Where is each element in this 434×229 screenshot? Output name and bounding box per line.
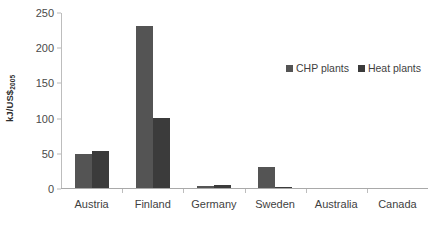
y-axis-title-main: kJ/US$	[4, 90, 15, 122]
y-tick-mark	[57, 153, 61, 154]
bar	[275, 187, 292, 188]
bar-chart: kJ/US$2005 050100150200250 AustriaFinlan…	[0, 0, 434, 229]
y-axis-line	[61, 13, 62, 189]
bar-group	[255, 167, 295, 188]
bar	[92, 151, 109, 188]
legend-label: CHP plants	[296, 62, 349, 74]
legend-swatch-icon	[286, 65, 293, 72]
x-axis-tick	[122, 189, 123, 193]
y-tick-label: 50	[42, 148, 54, 160]
category-label: Austria	[74, 198, 108, 210]
y-tick-label: 100	[36, 113, 54, 125]
y-tick-label: 200	[36, 42, 54, 54]
legend-item[interactable]: CHP plants	[286, 62, 349, 74]
category-label: Finland	[135, 198, 171, 210]
plot-area: 050100150200250 AustriaFinlandGermanySwe…	[61, 13, 428, 189]
x-axis-tick	[367, 189, 368, 193]
bar	[214, 185, 231, 188]
y-tick-mark	[57, 13, 61, 14]
legend-label: Heat plants	[368, 62, 421, 74]
bar	[75, 154, 92, 188]
bar-group	[133, 26, 173, 188]
bar-group	[194, 185, 234, 188]
bar	[258, 167, 275, 188]
y-tick-mark	[57, 189, 61, 190]
bar	[197, 186, 214, 188]
legend: CHP plantsHeat plants	[286, 62, 421, 74]
y-tick-label: 0	[48, 183, 54, 195]
bar-group	[72, 151, 112, 188]
y-tick-mark	[57, 83, 61, 84]
y-tick-label: 250	[36, 7, 54, 19]
y-axis-title-subscript: 2005	[9, 75, 16, 90]
bar	[136, 26, 153, 188]
y-tick-mark	[57, 118, 61, 119]
x-axis-tick	[183, 189, 184, 193]
x-axis-tick	[306, 189, 307, 193]
bar	[153, 118, 170, 188]
category-label: Australia	[315, 198, 358, 210]
legend-swatch-icon	[358, 65, 365, 72]
y-tick-label: 150	[36, 77, 54, 89]
category-label: Sweden	[255, 198, 295, 210]
y-axis-title: kJ/US$2005	[4, 58, 17, 138]
category-label: Canada	[378, 198, 417, 210]
legend-item[interactable]: Heat plants	[358, 62, 421, 74]
y-tick-mark	[57, 48, 61, 49]
category-label: Germany	[191, 198, 236, 210]
x-axis-tick	[245, 189, 246, 193]
